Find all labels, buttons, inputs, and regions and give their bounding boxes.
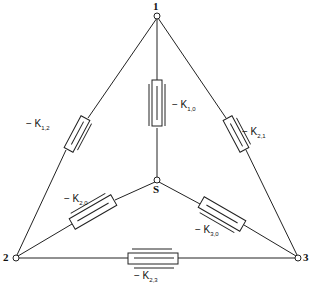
wire-s-2a [115, 182, 155, 200]
wire-s-3b [244, 225, 296, 256]
wire-s-3a [159, 182, 200, 204]
wire-1-3b [246, 150, 297, 255]
node-3 [295, 255, 301, 261]
wire-1-2a [88, 18, 157, 118]
label-k21: − K2,1 [242, 126, 266, 139]
wire-s-2b [18, 224, 72, 256]
node-1 [154, 13, 160, 19]
node-2 [13, 255, 19, 261]
node-label-s: S [153, 183, 159, 195]
label-k12: − K1,2 [26, 118, 50, 131]
node-label-3: 3 [303, 251, 309, 263]
label-k20: − K2,0 [64, 193, 88, 206]
label-k23: − K2,3 [134, 270, 158, 283]
resistor-k12 [64, 116, 92, 154]
node-label-2: 2 [3, 251, 9, 263]
resistor-k23 [128, 249, 178, 268]
resistor-k10 [149, 80, 165, 126]
label-k30: − K3,0 [195, 224, 219, 237]
label-k10: − K1,0 [172, 99, 196, 112]
node-label-1: 1 [153, 0, 159, 12]
circuit-diagram [0, 0, 313, 285]
wire-1-2b [17, 150, 66, 255]
